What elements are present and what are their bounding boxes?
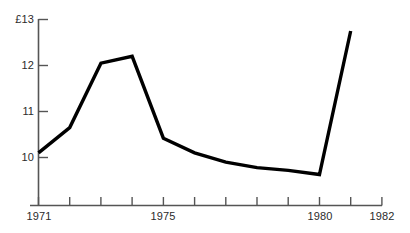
x-tick-label-1975: 1975	[141, 211, 185, 222]
x-axis-ticks	[39, 197, 382, 206]
x-tick-label-1982: 1982	[360, 211, 404, 222]
y-tick-label-11: 11	[2, 106, 34, 117]
y-tick-label-13: £13	[2, 14, 34, 25]
line-chart: £13 12 11 10 1971 1975 1980 1982	[0, 0, 410, 233]
y-tick-label-12: 12	[2, 60, 34, 71]
chart-plot-area	[0, 0, 410, 233]
data-series-line	[39, 31, 351, 175]
x-tick-label-1980: 1980	[298, 211, 342, 222]
y-tick-label-10: 10	[2, 152, 34, 163]
y-axis-ticks	[39, 20, 49, 158]
x-tick-label-1971: 1971	[17, 211, 61, 222]
